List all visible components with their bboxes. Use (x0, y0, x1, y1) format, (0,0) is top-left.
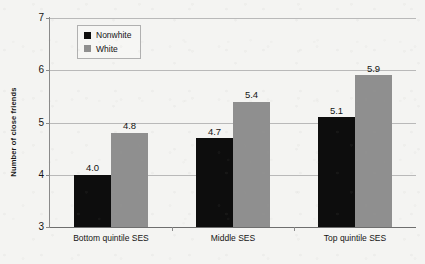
y-axis-tick-mark (46, 227, 50, 228)
bar-nonwhite-2[interactable]: 5.1 (318, 117, 355, 227)
y-axis-tick-label: 3 (38, 222, 44, 232)
legend-swatch-icon (84, 45, 91, 52)
legend-item-label: Nonwhite (96, 31, 131, 40)
bar-white-1[interactable]: 5.4 (233, 102, 270, 227)
bar-value-label: 4.0 (86, 163, 99, 173)
bar-value-label: 5.9 (367, 64, 380, 74)
bar-chart: Number of close friends 34567 4.04.84.75… (0, 0, 425, 264)
bar-value-label: 4.8 (123, 121, 136, 131)
bar-value-label: 5.1 (330, 106, 343, 116)
x-axis-tick-mark (294, 227, 295, 231)
x-axis-line (49, 227, 416, 228)
legend-item-nonwhite[interactable]: Nonwhite (84, 31, 131, 40)
x-axis-group-label: Middle SES (211, 233, 255, 243)
y-axis-tick-label: 7 (38, 13, 44, 23)
legend-item-label: White (96, 45, 118, 54)
x-axis-group-label: Top quintile SES (324, 233, 386, 243)
x-axis-tick-mark (172, 227, 173, 231)
bar-white-2[interactable]: 5.9 (355, 75, 392, 227)
y-axis-tick-label: 6 (38, 65, 44, 75)
bar-nonwhite-0[interactable]: 4.0 (74, 175, 111, 227)
legend-item-white[interactable]: White (84, 45, 131, 54)
bar-white-0[interactable]: 4.8 (111, 133, 148, 227)
bar-nonwhite-1[interactable]: 4.7 (196, 138, 233, 227)
y-axis-tick-label: 4 (38, 170, 44, 180)
y-axis-title: Number of close friends (9, 87, 18, 176)
bar-value-label: 4.7 (208, 127, 221, 137)
y-axis-tick-label: 5 (38, 118, 44, 128)
legend-swatch-icon (84, 32, 91, 39)
x-axis-group-label: Bottom quintile SES (73, 233, 149, 243)
chart-legend: NonwhiteWhite (77, 25, 141, 59)
bar-group: 4.75.4 (196, 18, 270, 227)
bar-value-label: 5.4 (245, 90, 258, 100)
plot-area: 34567 4.04.84.75.45.15.9 Bottom quintile… (50, 18, 416, 227)
bar-group: 5.15.9 (318, 18, 392, 227)
